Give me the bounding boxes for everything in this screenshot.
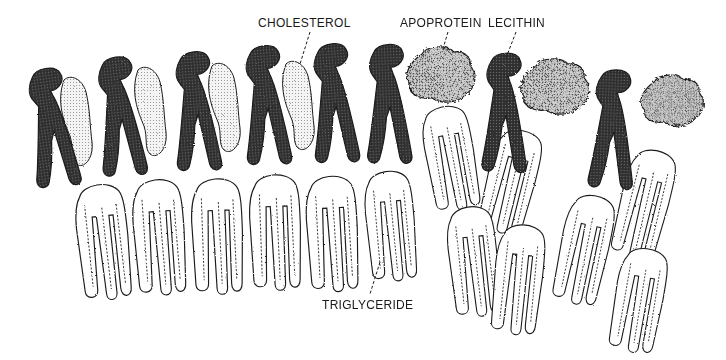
triglyceride-molecule [248,174,302,291]
lecithin-molecule [308,42,361,164]
apoprotein-molecule [521,59,589,114]
triglyceride-molecule [72,182,134,302]
label-lecithin: LECITHIN [488,16,545,30]
label-apoprotein: APOPROTEIN [400,16,482,30]
apoprotein-molecule [407,47,475,102]
label-triglyceride: TRIGLYCERIDE [322,298,413,312]
apoprotein-molecule [641,75,704,126]
triglyceride-molecule [362,169,419,283]
triglyceride-molecule [418,103,483,214]
cholesterol-leader-line [300,32,310,64]
lecithin-molecule [240,44,293,166]
lipoprotein-diagram: CHOLESTEROL APOPROTEIN LECITHIN TRIGLYCE… [0,0,726,360]
triglyceride-molecule [130,178,188,297]
label-cholesterol: CHOLESTEROL [258,16,351,30]
triglyceride-molecule [488,222,547,336]
triglyceride-molecule [549,191,619,309]
triglyceride-molecule [606,245,671,356]
triglyceride-molecule [190,178,244,295]
lecithin-molecule [364,44,413,165]
triglyceride-molecule [304,175,360,293]
